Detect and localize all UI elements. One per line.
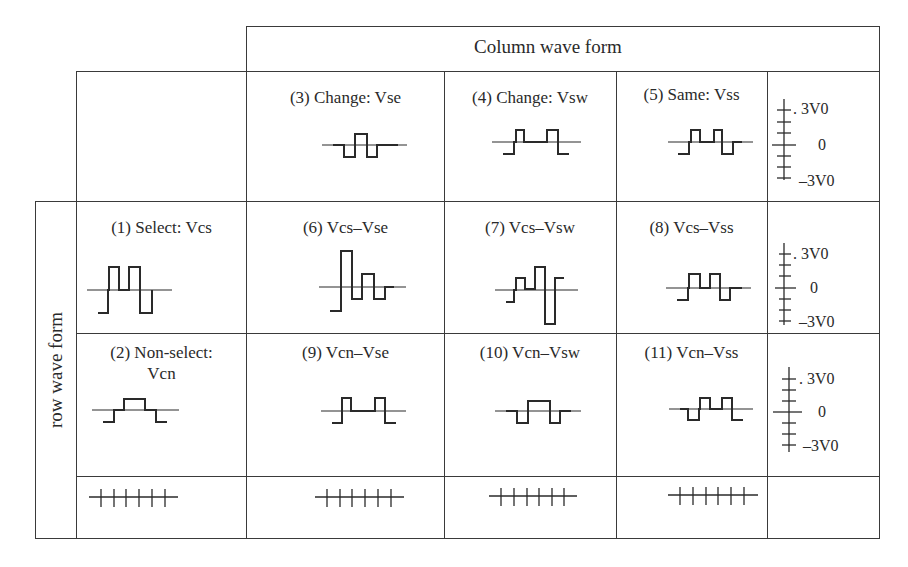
col-line-4 [767, 71, 768, 539]
cell-label-3: (3) Change: Vse [247, 88, 444, 108]
cell-label-2-line1: (2) Non-select: [76, 343, 247, 363]
cell-label-5: (5) Same: Vss [616, 85, 767, 105]
col-line-3 [616, 71, 617, 539]
waveform-3-change-vse [0, 0, 908, 567]
col-line-2 [444, 71, 445, 539]
scale-2-bottom-label: –3V0 [799, 313, 835, 331]
row-line-1 [76, 71, 880, 72]
row-line-3 [76, 333, 880, 334]
cell-label-4: (4) Change: Vsw [444, 88, 616, 108]
scale-2-mid-label: 0 [810, 279, 818, 297]
row-line-5 [35, 538, 880, 539]
cell-label-10: (10) Vcn–Vsw [444, 343, 616, 363]
cell-label-1: (1) Select: Vcs [76, 218, 247, 238]
col-line-0 [76, 71, 77, 539]
cell-label-8: (8) Vcs–Vss [616, 218, 767, 238]
column-waveform-title: Column wave form [474, 36, 622, 58]
cell-label-2-line2: Vcn [76, 364, 247, 384]
voltage-scale-1 [0, 0, 908, 567]
header-box-right [879, 26, 880, 538]
cell-label-6: (6) Vcs–Vse [247, 218, 444, 238]
row-waveform-axis-text: row wave form [45, 311, 67, 427]
scale-1-bottom-label: –3V0 [799, 172, 835, 190]
cell-label-7: (7) Vcs–Vsw [444, 218, 616, 238]
scale-1-mid-label: 0 [818, 136, 826, 154]
scale-3-bottom-label: –3V0 [803, 437, 839, 455]
scale-2-top-label: . 3V0 [793, 245, 829, 263]
header-box-top [247, 26, 880, 27]
cell-label-9: (9) Vcn–Vse [247, 343, 444, 363]
scale-1-top-label: . 3V0 [793, 100, 829, 118]
scale-3-top-label: . 3V0 [799, 370, 835, 388]
cell-label-11: (11) Vcn–Vss [616, 343, 767, 363]
row-waveform-axis-label: row wave form [35, 201, 76, 538]
scale-3-mid-label: 0 [818, 403, 826, 421]
row-line-2 [35, 201, 880, 202]
time-axis-row [0, 0, 908, 567]
row-line-4 [76, 476, 880, 477]
